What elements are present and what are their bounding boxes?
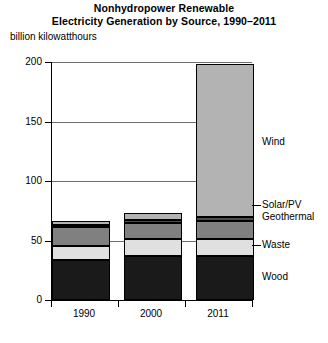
segment-1990-waste[interactable] bbox=[52, 246, 110, 259]
bar-2000[interactable] bbox=[124, 62, 182, 300]
segment-2000-wind[interactable] bbox=[124, 213, 182, 220]
series-label-wood: Wood bbox=[262, 271, 288, 283]
chart-title-line-1: Nonhydropower Renewable bbox=[0, 2, 328, 15]
leader-line-solarpv bbox=[252, 205, 261, 206]
y-tick-label-0: 0 bbox=[4, 295, 42, 305]
x-tick-left bbox=[51, 301, 52, 307]
segment-2000-waste[interactable] bbox=[124, 239, 182, 256]
y-tick-200 bbox=[45, 62, 52, 63]
bar-2011[interactable] bbox=[196, 62, 254, 300]
segment-2011-waste[interactable] bbox=[196, 239, 254, 256]
y-axis-unit-label: billion kilowatthours bbox=[10, 31, 97, 43]
chart-title: Nonhydropower Renewable Electricity Gene… bbox=[0, 2, 328, 27]
leader-line-waste bbox=[252, 245, 261, 246]
segment-2000-geothermal[interactable] bbox=[124, 223, 182, 240]
series-label-solarpv: Solar/PV bbox=[262, 199, 301, 211]
y-tick-label-50: 50 bbox=[4, 236, 42, 246]
series-label-wind: Wind bbox=[262, 136, 285, 148]
y-tick-label-100: 100 bbox=[4, 176, 42, 186]
x-tick-1 bbox=[118, 301, 119, 307]
segment-1990-solarpv[interactable] bbox=[52, 225, 110, 228]
segment-2011-geothermal[interactable] bbox=[196, 221, 254, 239]
y-tick-50 bbox=[45, 241, 52, 242]
y-tick-label-150: 150 bbox=[4, 117, 42, 127]
x-tick-label-2000: 2000 bbox=[118, 308, 184, 320]
segment-2000-wood[interactable] bbox=[124, 256, 182, 300]
series-label-waste: Waste bbox=[262, 239, 290, 251]
bar-1990[interactable] bbox=[52, 62, 110, 300]
x-tick-2 bbox=[185, 301, 186, 307]
segment-2011-wood[interactable] bbox=[196, 256, 254, 300]
segment-1990-wind[interactable] bbox=[52, 221, 110, 225]
x-tick-label-2011: 2011 bbox=[185, 308, 251, 320]
x-tick-right bbox=[252, 301, 253, 307]
segment-1990-wood[interactable] bbox=[52, 260, 110, 301]
chart-figure: Nonhydropower Renewable Electricity Gene… bbox=[0, 0, 328, 343]
chart-title-line-2: Electricity Generation by Source, 1990–2… bbox=[0, 15, 328, 28]
plot-area bbox=[52, 62, 252, 300]
segment-2011-solarpv[interactable] bbox=[196, 217, 254, 221]
segment-2000-solarpv[interactable] bbox=[124, 220, 182, 223]
y-tick-100 bbox=[45, 181, 52, 182]
x-axis-line bbox=[51, 300, 253, 301]
series-label-geothermal: Geothermal bbox=[262, 211, 314, 223]
x-tick-label-1990: 1990 bbox=[51, 308, 117, 320]
segment-1990-geothermal[interactable] bbox=[52, 227, 110, 246]
y-tick-150 bbox=[45, 122, 52, 123]
segment-2011-wind[interactable] bbox=[196, 64, 254, 217]
y-tick-label-200: 200 bbox=[4, 57, 42, 67]
